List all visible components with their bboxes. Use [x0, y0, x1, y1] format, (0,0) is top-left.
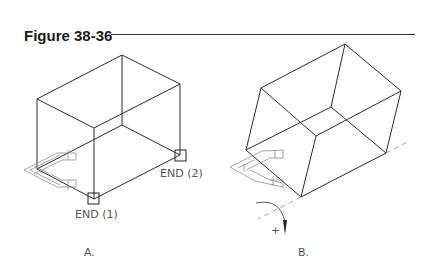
ucs-icon-b: [230, 150, 283, 187]
snap-label-end-2: END (2): [160, 167, 203, 180]
rotation-arrowhead-icon: [283, 220, 287, 235]
snap-label-end-1: END (1): [75, 208, 118, 221]
panel-caption-b: B.: [298, 246, 309, 258]
rotation-arc: [256, 202, 285, 222]
box-a: [37, 55, 180, 199]
panel-caption-a: A.: [84, 246, 95, 258]
box-b: [246, 44, 401, 197]
figure-canvas: + END (1) END (2) A. B.: [0, 0, 431, 258]
ucs-icon-a: [24, 150, 76, 190]
rotation-sign: +: [271, 224, 280, 237]
